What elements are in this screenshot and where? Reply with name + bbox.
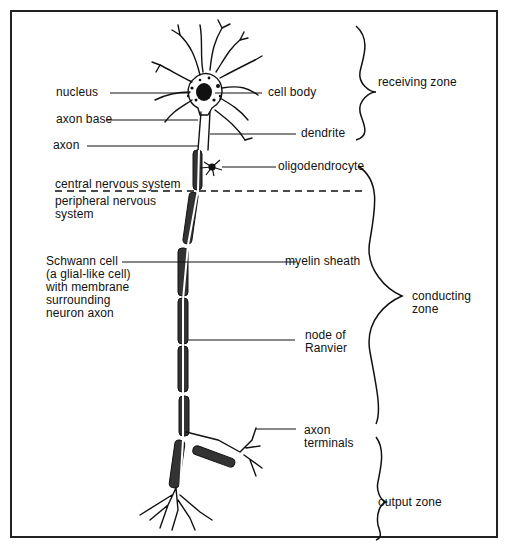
oligodendrocyte: [200, 160, 222, 176]
label-oligodendrocyte: oligodendrocyte: [278, 160, 364, 173]
label-node-of-ranvier: node of Ranvier: [305, 329, 347, 355]
label-cns: central nervous system: [55, 178, 181, 191]
zone-braces: [356, 26, 402, 540]
label-cell-body: cell body: [268, 86, 316, 99]
label-output-zone: output zone: [378, 496, 442, 509]
label-conducting-zone: conducting zone: [412, 290, 471, 316]
myelin-segments: [169, 150, 236, 488]
label-schwann-cell: Schwann cell (a glial-like cell) with me…: [46, 255, 131, 320]
label-axon-terminals: axon terminals: [304, 424, 354, 450]
label-myelin-sheath: myelin sheath: [285, 255, 360, 268]
nucleus: [196, 83, 212, 101]
dendrites: [152, 20, 262, 140]
label-dendrite: dendrite: [301, 127, 345, 140]
label-receiving-zone: receiving zone: [378, 76, 457, 89]
label-pns: peripheral nervous system: [55, 195, 156, 221]
brace-receiving: [356, 26, 376, 140]
label-axon: axon: [53, 139, 79, 152]
brace-conducting: [358, 166, 402, 424]
brace-output: [376, 437, 386, 540]
label-axon-base: axon base: [56, 113, 112, 126]
label-nucleus: nucleus: [56, 86, 98, 99]
